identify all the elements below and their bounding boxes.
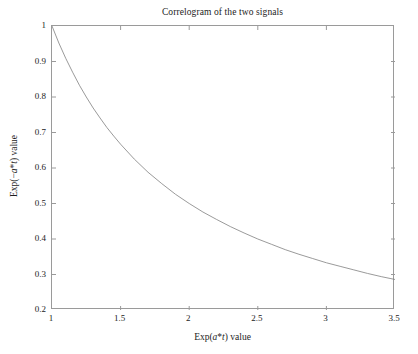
chart-title: Correlogram of the two signals (51, 6, 394, 18)
y-tick-label: 0.5 (16, 198, 46, 208)
x-tick-label: 1.5 (103, 313, 137, 323)
x-axis-label-suffix: ) value (225, 332, 251, 342)
x-tick-label: 1 (34, 313, 68, 323)
y-tick-label: 1 (16, 20, 46, 30)
y-axis-label-prefix: Exp(− (9, 173, 19, 197)
x-tick-label: 3 (308, 313, 342, 323)
y-axis-label-star: * (9, 164, 19, 169)
y-axis-label-a: a (9, 168, 19, 173)
x-tick-label: 2.5 (240, 313, 274, 323)
plot-area (51, 25, 394, 309)
chart-figure: Correlogram of the two signals 0.20.30.4… (0, 0, 418, 354)
y-tick-label: 0.9 (16, 56, 46, 66)
y-tick-label: 0.3 (16, 269, 46, 279)
y-axis-label-t: t (9, 161, 19, 164)
y-axis-label: Exp(−a*t) value (8, 96, 20, 236)
x-tick-label: 3.5 (377, 313, 411, 323)
x-tick-label: 2 (171, 313, 205, 323)
y-tick-label: 0.6 (16, 162, 46, 172)
y-tick-label: 0.8 (16, 91, 46, 101)
y-tick-label: 0.7 (16, 127, 46, 137)
x-axis-label-prefix: Exp( (194, 332, 212, 342)
data-series-line (52, 26, 395, 279)
y-tick-label: 0.4 (16, 233, 46, 243)
plot-canvas (52, 26, 395, 310)
y-axis-label-suffix: ) value (9, 135, 19, 161)
x-axis-label: Exp(a*t) value (51, 331, 394, 343)
